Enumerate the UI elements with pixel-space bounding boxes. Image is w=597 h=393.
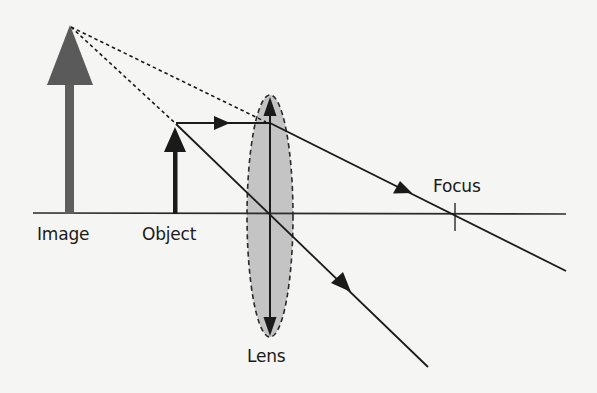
object-arrow-shaft (173, 148, 178, 214)
center-ray-arrowhead-icon (331, 272, 351, 292)
diagram-graphic (0, 0, 597, 393)
optical-axis (33, 213, 566, 214)
center-ray (176, 124, 428, 367)
object-label: Object (142, 224, 196, 244)
refracted-ray-arrowhead-icon (393, 181, 412, 194)
image-arrow (47, 25, 93, 214)
parallel-ray-arrowhead-icon (214, 116, 230, 130)
parallel-ray-refracted (270, 123, 566, 271)
object-arrow (164, 127, 186, 214)
focus-label: Focus (433, 176, 481, 196)
image-arrow-shaft (65, 82, 74, 214)
lens-ray-diagram: Image Object Focus Lens (0, 0, 597, 393)
virtual-extension-top (71, 27, 266, 122)
virtual-ray-extensions (71, 27, 266, 123)
image-arrowhead-icon (47, 25, 93, 85)
lens-label: Lens (247, 346, 285, 366)
image-label: Image (37, 224, 89, 244)
